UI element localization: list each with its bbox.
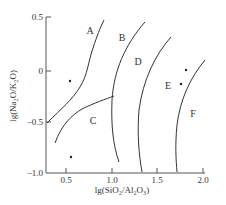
data-point	[180, 83, 182, 85]
y-tick-label: −0.5	[27, 117, 44, 127]
boundary-b-c	[55, 96, 114, 143]
y-tick-label: 0	[39, 66, 44, 76]
region-label-f: F	[190, 108, 196, 119]
y-axis-title: lg(Na₂O/K₂O)	[8, 70, 18, 122]
x-tick-label: 1.5	[151, 175, 163, 185]
region-label-e: E	[165, 80, 171, 91]
y-tick-label: −1.0	[27, 168, 44, 178]
region-label-c: C	[90, 115, 97, 126]
data-point	[185, 69, 187, 71]
x-axis-title: lg(SiO₂/Al₂O₃)	[95, 185, 149, 195]
region-label-a: A	[86, 25, 94, 36]
region-label-b: B	[119, 32, 126, 43]
boundary-d-e	[138, 37, 171, 172]
data-point	[69, 80, 71, 82]
boundary-b-d	[112, 22, 145, 162]
region-label-d: D	[134, 56, 141, 67]
data-point	[70, 156, 72, 158]
classification-chart: 0.5 0 −0.5 −1.0 0.5 1.0 1.5 2.0 lg(SiO₂/…	[0, 0, 226, 205]
x-tick-label: 1.0	[106, 175, 118, 185]
boundary-a-b	[47, 20, 104, 123]
y-tick-label: 0.5	[32, 12, 44, 22]
x-tick-label: 2.0	[197, 175, 209, 185]
x-tick-label: 0.5	[60, 175, 72, 185]
